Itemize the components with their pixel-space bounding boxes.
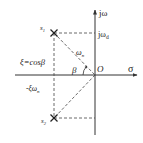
s2-label: s2 — [41, 117, 47, 126]
s-plane-diagram: jω σ O jωd s1 s2 ωn β ξ=cosβ -ξωn — [0, 0, 143, 143]
sigma-axis-label: σ — [128, 63, 134, 74]
jw-axis-label: jω — [98, 8, 108, 18]
jwd-label: jωd — [97, 29, 109, 40]
beta-label: β — [71, 65, 77, 75]
s1-label: s1 — [40, 24, 45, 33]
damping-relation-label: ξ=cosβ — [20, 57, 46, 67]
neg-xi-omega-n-label: -ξωn — [26, 84, 40, 94]
omega-n-label: ωn — [76, 48, 85, 58]
origin-label: O — [97, 64, 104, 74]
origin-s2-line — [54, 75, 95, 118]
